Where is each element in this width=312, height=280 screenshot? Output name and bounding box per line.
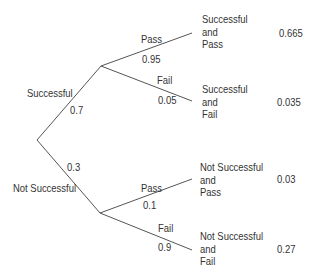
prob-not-successful: 0.3 [67,161,80,173]
outcome-not-successful-pass: Not Successful and Pass [200,161,263,199]
outcome-line: and [202,26,248,39]
label-not-successful-fail: Fail [158,222,173,234]
prob-successful-fail: 0.05 [158,94,176,106]
label-not-successful-pass: Pass [141,182,162,194]
outcome-line: Pass [200,186,263,199]
branch-not-successful [37,140,100,213]
outcome-line: Not Successful [200,161,263,174]
outcome-line: Successful [202,13,248,26]
label-not-successful: Not Successful [13,182,76,194]
label-successful: Successful [27,87,73,99]
joint-successful-pass: 0.665 [279,27,303,39]
prob-not-successful-pass: 0.1 [143,199,156,211]
outcome-successful-pass: Successful and Pass [202,13,248,51]
branch-successful [37,66,101,140]
prob-successful: 0.7 [70,104,83,116]
outcome-line: Not Successful [200,230,263,243]
joint-not-successful-fail: 0.27 [277,243,295,255]
label-successful-pass: Pass [141,33,162,45]
outcome-line: and [200,243,263,256]
outcome-line: and [202,96,248,109]
outcome-line: and [200,174,263,187]
joint-not-successful-pass: 0.03 [277,173,295,185]
joint-successful-fail: 0.035 [277,96,301,108]
outcome-line: Fail [202,108,248,121]
prob-not-successful-fail: 0.9 [158,241,171,253]
branch-not-successful-fail [100,213,192,250]
outcome-not-successful-fail: Not Successful and Fail [200,230,263,268]
outcome-line: Pass [202,38,248,51]
prob-successful-pass: 0.95 [142,53,160,65]
label-successful-fail: Fail [157,74,172,86]
outcome-line: Successful [202,83,248,96]
outcome-successful-fail: Successful and Fail [202,83,248,121]
branch-successful-fail [101,66,192,101]
outcome-line: Fail [200,255,263,268]
